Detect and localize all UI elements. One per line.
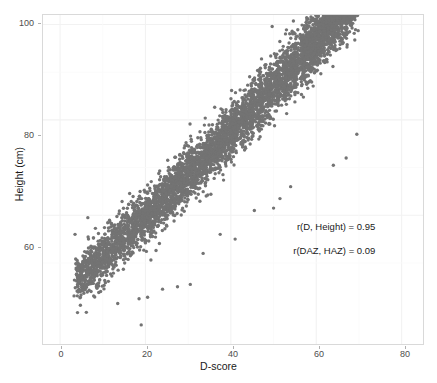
y-tick-label-60: 60 bbox=[4, 243, 34, 252]
x-tick-mark-60 bbox=[319, 346, 320, 349]
x-tick-label-0: 0 bbox=[58, 350, 63, 359]
gridlines bbox=[43, 15, 423, 344]
plot-panel bbox=[42, 14, 424, 345]
plot-canvas bbox=[43, 15, 423, 344]
x-tick-label-60: 60 bbox=[314, 350, 324, 359]
x-tick-label-20: 20 bbox=[142, 350, 152, 359]
x-tick-mark-40 bbox=[233, 346, 234, 349]
y-axis-title: Height (cm) bbox=[13, 119, 25, 229]
y-tick-mark-100 bbox=[38, 23, 41, 24]
x-tick-label-80: 80 bbox=[400, 350, 410, 359]
x-tick-mark-0 bbox=[61, 346, 62, 349]
y-tick-label-100: 100 bbox=[4, 19, 34, 28]
scatter-plot-figure: 100 80 60 0 20 40 60 80 D-score Height (… bbox=[0, 0, 437, 383]
x-tick-mark-20 bbox=[147, 346, 148, 349]
x-tick-mark-80 bbox=[405, 346, 406, 349]
x-tick-label-40: 40 bbox=[228, 350, 238, 359]
y-tick-mark-80 bbox=[38, 135, 41, 136]
y-tick-mark-60 bbox=[38, 247, 41, 248]
x-axis-title: D-score bbox=[0, 360, 437, 372]
annotation-corr-d-height: r(D, Height) = 0.95 bbox=[265, 221, 375, 232]
annotation-corr-daz-haz: r(DAZ, HAZ) = 0.09 bbox=[265, 245, 375, 256]
